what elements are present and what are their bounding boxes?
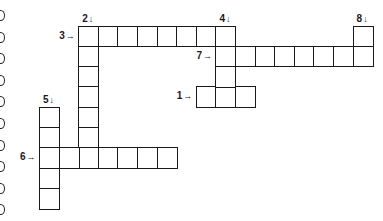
arrow-right-icon: → — [27, 152, 36, 162]
arrow-right-icon: → — [183, 91, 192, 101]
crossword-cell[interactable] — [157, 26, 178, 48]
clue-label-7-across: 7→ — [196, 51, 212, 61]
arrow-right-icon: → — [203, 51, 212, 61]
arrow-right-icon: → — [66, 31, 75, 41]
crossword-cell[interactable] — [78, 26, 99, 48]
crossword-cell[interactable] — [59, 147, 80, 169]
crossword-cell[interactable] — [215, 86, 236, 108]
crossword-cell[interactable] — [78, 66, 99, 88]
arrow-down-icon: ↓ — [363, 14, 368, 24]
crossword-cell[interactable] — [215, 66, 236, 88]
clue-number: 4 — [219, 13, 225, 24]
clue-label-8-down: 8↓ — [357, 14, 368, 24]
crossword-cell[interactable] — [215, 46, 236, 68]
binding-ring-icon — [0, 140, 5, 151]
clue-label-3-across: 3→ — [59, 31, 75, 41]
crossword-cell[interactable] — [78, 107, 99, 129]
crossword-cell[interactable] — [196, 86, 217, 108]
crossword-cell[interactable] — [176, 26, 197, 48]
crossword-cell[interactable] — [235, 86, 256, 108]
crossword-cell[interactable] — [353, 46, 374, 68]
crossword-cell[interactable] — [274, 46, 295, 68]
clue-number: 3 — [59, 30, 65, 41]
clue-number: 1 — [177, 90, 183, 101]
binding-ring-icon — [0, 10, 5, 21]
crossword-cell[interactable] — [117, 26, 138, 48]
crossword-cell[interactable] — [117, 147, 138, 169]
binding-ring-icon — [0, 75, 5, 86]
crossword-cell[interactable] — [255, 46, 276, 68]
clue-label-6-across: 6→ — [20, 152, 36, 162]
clue-number: 5 — [43, 94, 49, 105]
crossword-cell[interactable] — [137, 26, 158, 48]
crossword-cell[interactable] — [78, 46, 99, 68]
clue-label-2-down: 2↓ — [82, 14, 93, 24]
binding-ring-icon — [0, 53, 5, 64]
crossword-cell[interactable] — [39, 188, 60, 210]
clue-number: 2 — [82, 13, 88, 24]
crossword-cell[interactable] — [39, 127, 60, 149]
crossword-cell[interactable] — [39, 147, 60, 169]
clue-number: 6 — [20, 151, 26, 162]
binding-ring-icon — [0, 183, 5, 194]
clue-label-1-across: 1→ — [177, 91, 193, 101]
crossword-cell[interactable] — [157, 147, 178, 169]
clue-number: 8 — [357, 13, 363, 24]
clue-label-5-down: 5↓ — [43, 95, 54, 105]
crossword-cell[interactable] — [39, 107, 60, 129]
crossword-cell[interactable] — [235, 46, 256, 68]
crossword-cell[interactable] — [98, 147, 119, 169]
crossword-cell[interactable] — [98, 26, 119, 48]
binding-ring-icon — [0, 118, 5, 129]
binding-ring-icon — [0, 161, 5, 172]
binding-ring-icon — [0, 32, 5, 43]
crossword-cell[interactable] — [313, 46, 334, 68]
crossword-cell[interactable] — [196, 26, 217, 48]
crossword-cell[interactable] — [78, 147, 99, 169]
binding-ring-icon — [0, 204, 5, 215]
crossword-cell[interactable] — [39, 168, 60, 190]
arrow-down-icon: ↓ — [89, 14, 94, 24]
binding-ring-icon — [0, 96, 5, 107]
crossword-cell[interactable] — [78, 86, 99, 108]
arrow-down-icon: ↓ — [50, 95, 55, 105]
crossword-cell[interactable] — [333, 46, 354, 68]
crossword-cell[interactable] — [215, 26, 236, 48]
clue-number: 7 — [196, 50, 202, 61]
crossword-cell[interactable] — [353, 26, 374, 48]
arrow-down-icon: ↓ — [226, 14, 231, 24]
clue-label-4-down: 4↓ — [219, 14, 230, 24]
crossword-cell[interactable] — [294, 46, 315, 68]
crossword-cell[interactable] — [78, 127, 99, 149]
crossword-cell[interactable] — [137, 147, 158, 169]
